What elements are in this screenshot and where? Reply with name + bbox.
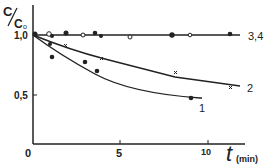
- series-1-label: 1: [199, 102, 205, 114]
- x-tick-5: 5: [116, 147, 122, 159]
- series-2-markers: [64, 44, 232, 89]
- x-axis-label-t: t: [226, 141, 233, 166]
- series-34-label: 3,4: [248, 30, 263, 42]
- y-tick-05: 0,5: [14, 90, 28, 101]
- chart: C C o 1,0 0,5 0 5 10 t (min) 3,4 2 1: [0, 0, 271, 166]
- y-axis-label-c0: C: [14, 17, 23, 31]
- x-tick-0: 0: [25, 147, 31, 159]
- series-1-markers: [50, 55, 194, 101]
- series-2-line: [33, 35, 240, 86]
- y-tick-1: 1,0: [14, 30, 28, 41]
- y-axis-label-sub: o: [23, 23, 27, 30]
- y-axis-label-c: C: [3, 4, 13, 19]
- x-axis-label-unit: (min): [236, 154, 258, 164]
- series-2-label: 2: [247, 82, 253, 94]
- x-tick-10: 10: [201, 147, 211, 157]
